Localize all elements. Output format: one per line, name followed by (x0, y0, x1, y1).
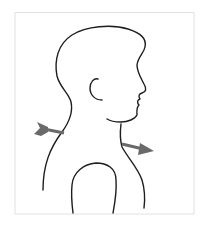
frame-border (15, 13, 194, 215)
illustration (0, 0, 207, 230)
